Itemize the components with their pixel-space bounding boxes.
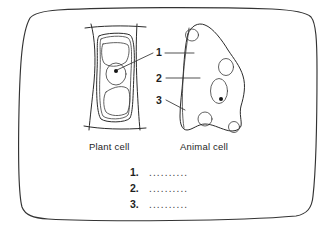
worksheet-canvas: 1 2 3 Plant cell Animal cell 1. ........… bbox=[0, 0, 336, 232]
answer-number-2: 2. bbox=[130, 182, 145, 194]
callout-number-2: 2 bbox=[156, 73, 162, 84]
callout-number-1: 1 bbox=[156, 47, 162, 58]
answer-number-1: 1. bbox=[130, 166, 145, 178]
answer-row-2: 2. .......... bbox=[130, 182, 188, 194]
answer-blank-3[interactable]: .......... bbox=[149, 199, 188, 210]
answer-blank-2[interactable]: .......... bbox=[149, 183, 188, 194]
answer-row-3: 3. .......... bbox=[130, 198, 188, 210]
answer-row-1: 1. .......... bbox=[130, 166, 188, 178]
answer-number-3: 3. bbox=[130, 198, 145, 210]
callout-number-3: 3 bbox=[156, 95, 162, 106]
leader-line-1 bbox=[117, 53, 153, 70]
caption-plant-cell: Plant cell bbox=[89, 142, 130, 152]
caption-animal-cell: Animal cell bbox=[180, 142, 228, 152]
leader-line-3 bbox=[166, 100, 185, 110]
answer-blank-1[interactable]: .......... bbox=[149, 167, 188, 178]
